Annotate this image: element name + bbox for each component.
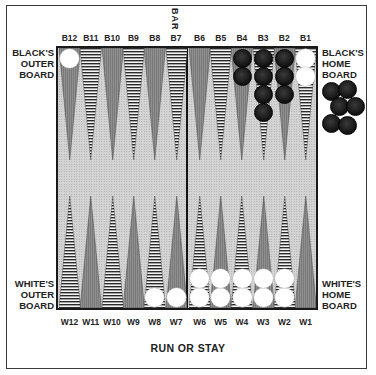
white-home-board-label: WHITE'S HOME BOARD xyxy=(322,278,361,311)
triangle-solid xyxy=(295,196,317,308)
point-label-w7: W7 xyxy=(165,317,187,327)
point-b6[interactable] xyxy=(189,48,211,160)
point-b10[interactable] xyxy=(102,48,124,160)
point-label-b5: B5 xyxy=(210,33,232,43)
point-w10[interactable] xyxy=(102,196,124,308)
black-checker[interactable] xyxy=(233,67,252,86)
triangle-striped xyxy=(80,48,102,160)
borne-off-black-checker xyxy=(346,97,365,116)
point-label-b3: B3 xyxy=(252,33,274,43)
black-checker[interactable] xyxy=(254,85,273,104)
point-label-w5: W5 xyxy=(210,317,232,327)
diagram-caption: RUN OR STAY xyxy=(0,342,376,354)
triangle-striped xyxy=(102,196,124,308)
point-label-w2: W2 xyxy=(273,317,295,327)
black-checker[interactable] xyxy=(275,67,294,86)
triangle-solid xyxy=(189,48,211,160)
white-checker[interactable] xyxy=(254,269,273,288)
black-checker[interactable] xyxy=(275,49,294,68)
white-outer-board-label: WHITE'S OUTER BOARD xyxy=(10,278,54,311)
point-b7[interactable] xyxy=(166,48,188,160)
white-checker[interactable] xyxy=(275,269,294,288)
triangle-striped xyxy=(59,196,81,308)
triangle-solid xyxy=(102,48,124,160)
triangle-striped xyxy=(166,48,188,160)
point-label-b4: B4 xyxy=(231,33,253,43)
white-checker[interactable] xyxy=(233,269,252,288)
point-label-w6: W6 xyxy=(189,317,211,327)
point-label-w12: W12 xyxy=(59,317,81,327)
point-label-b8: B8 xyxy=(144,33,166,43)
point-label-b10: B10 xyxy=(101,33,123,43)
point-b5[interactable] xyxy=(210,48,232,160)
borne-off-black-checker xyxy=(338,116,357,135)
black-checker[interactable] xyxy=(254,49,273,68)
point-label-w8: W8 xyxy=(144,317,166,327)
point-b11[interactable] xyxy=(80,48,102,160)
black-checker[interactable] xyxy=(254,67,273,86)
point-label-b11: B11 xyxy=(80,33,102,43)
point-b8[interactable] xyxy=(144,48,166,160)
point-label-w11: W11 xyxy=(80,317,102,327)
point-w1[interactable] xyxy=(295,196,317,308)
point-label-b6: B6 xyxy=(189,33,211,43)
backgammon-board xyxy=(56,46,318,310)
point-label-w9: W9 xyxy=(122,317,144,327)
black-checker[interactable] xyxy=(254,103,273,122)
white-checker[interactable] xyxy=(233,288,252,307)
black-checker[interactable] xyxy=(275,85,294,104)
point-b9[interactable] xyxy=(123,48,145,160)
point-label-w1: W1 xyxy=(295,317,317,327)
point-label-b2: B2 xyxy=(273,33,295,43)
point-label-w3: W3 xyxy=(252,317,274,327)
point-label-w4: W4 xyxy=(231,317,253,327)
triangle-striped xyxy=(123,48,145,160)
triangle-solid xyxy=(80,196,102,308)
point-label-b9: B9 xyxy=(122,33,144,43)
point-label-b1: B1 xyxy=(295,33,317,43)
bar-label: BAR xyxy=(170,8,180,31)
white-checker[interactable] xyxy=(167,288,186,307)
black-outer-board-label: BLACK'S OUTER BOARD xyxy=(12,47,54,80)
point-w11[interactable] xyxy=(80,196,102,308)
white-checker[interactable] xyxy=(275,288,294,307)
point-label-b12: B12 xyxy=(59,33,81,43)
triangle-solid xyxy=(144,48,166,160)
triangle-striped xyxy=(210,48,232,160)
black-home-board-label: BLACK'S HOME BOARD xyxy=(322,47,364,80)
point-label-w10: W10 xyxy=(101,317,123,327)
black-checker[interactable] xyxy=(233,49,252,68)
white-checker[interactable] xyxy=(254,288,273,307)
point-w12[interactable] xyxy=(59,196,81,308)
triangle-solid xyxy=(123,196,145,308)
point-w9[interactable] xyxy=(123,196,145,308)
point-label-b7: B7 xyxy=(165,33,187,43)
